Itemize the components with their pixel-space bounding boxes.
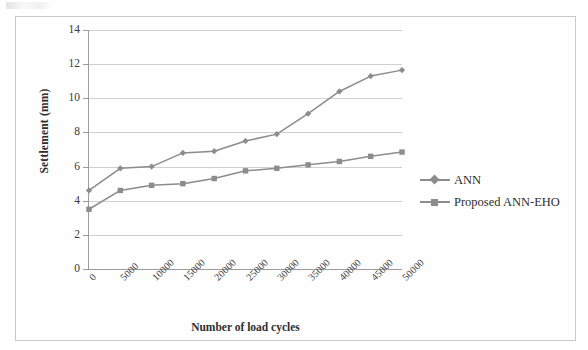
data-point-square	[305, 162, 310, 167]
series-1	[86, 67, 405, 194]
data-point-square	[243, 168, 248, 173]
data-point-diamond	[242, 138, 248, 144]
figure-frame: Settlement (mm) 14121086420 050001000015…	[15, 16, 576, 341]
data-point-square	[118, 188, 123, 193]
legend-label: ANN	[454, 173, 481, 188]
chart-legend: ANN Proposed ANN-EHO	[420, 169, 570, 213]
data-point-diamond	[149, 163, 155, 169]
series-line	[89, 152, 402, 209]
data-point-square	[399, 149, 404, 154]
data-point-square	[149, 183, 154, 188]
data-point-square	[337, 159, 342, 164]
data-point-square	[368, 154, 373, 159]
data-point-diamond	[368, 73, 374, 79]
scan-smudge-artifact	[6, 2, 52, 9]
data-point-square	[180, 181, 185, 186]
series-2	[86, 149, 404, 212]
data-point-square	[86, 207, 91, 212]
data-point-diamond	[211, 148, 217, 154]
diamond-marker-icon	[420, 173, 450, 187]
legend-entry-ann[interactable]: ANN	[420, 169, 570, 191]
data-point-diamond	[399, 67, 405, 73]
data-point-square	[212, 176, 217, 181]
legend-entry-proposed-ann-eho[interactable]: Proposed ANN-EHO	[420, 191, 570, 213]
chart-plot-area: Settlement (mm) 14121086420 050001000015…	[16, 17, 577, 342]
square-marker-icon	[420, 195, 450, 209]
data-point-square	[274, 166, 279, 171]
legend-label: Proposed ANN-EHO	[454, 195, 560, 210]
data-point-diamond	[180, 150, 186, 156]
